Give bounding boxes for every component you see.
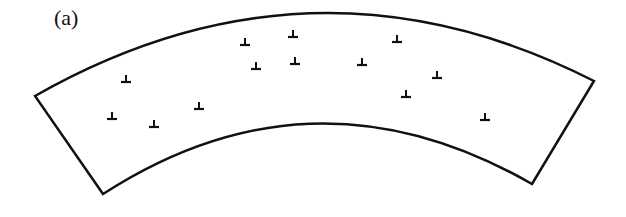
dislocation-icon (401, 90, 411, 97)
dislocation-icon (432, 71, 442, 78)
dislocation-icon (149, 120, 159, 127)
dislocation-icon (392, 35, 402, 42)
dislocation-icon (240, 38, 250, 45)
band-outline (35, 13, 594, 194)
dislocation-icon (288, 30, 298, 37)
dislocation-symbols (107, 30, 490, 127)
dislocation-icon (480, 113, 490, 120)
dislocation-icon (121, 75, 131, 82)
dislocation-icon (357, 58, 367, 65)
dislocation-icon (290, 57, 300, 64)
dislocation-icon (251, 62, 261, 69)
dislocation-icon (194, 102, 204, 109)
dislocation-icon (107, 112, 117, 119)
curved-crystal-band-diagram (0, 0, 626, 217)
